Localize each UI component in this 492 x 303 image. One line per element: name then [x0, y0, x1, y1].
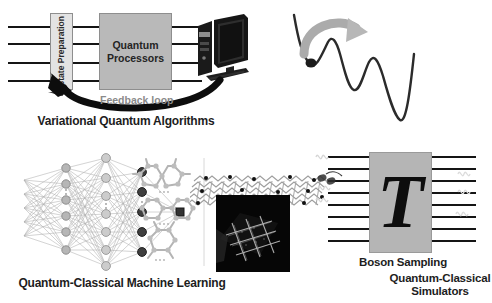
quantum-annealing-panel: Quantum Annealing — [280, 0, 492, 135]
input-wire — [8, 26, 50, 28]
quantum-processors-label: Quantum Processors — [100, 39, 171, 64]
quantum-classical-simulators-panel: Quantum-Classical Simulators — [190, 133, 330, 283]
middle-wire — [73, 43, 99, 45]
tunneling-arrow-icon — [292, 12, 378, 62]
input-wire — [8, 62, 50, 64]
quantum-chip-photo-icon — [216, 195, 290, 272]
feedback-loop-label: Feedback loop — [100, 94, 174, 106]
input-wire — [8, 43, 50, 45]
output-mode-line — [432, 156, 476, 158]
photon-wave-packet-icon — [314, 148, 370, 252]
boson-sampling-caption: Boson Sampling — [353, 256, 453, 268]
boson-sampling-panel: T Boson Sampling — [318, 148, 492, 303]
variational-quantum-algorithms-caption: Variational Quantum Algorithms — [22, 114, 230, 128]
transfer-matrix-symbol: T — [370, 153, 431, 252]
middle-wire — [73, 26, 99, 28]
quantum-computing-paradigms-figure: State Preparation Quantum Processors — [0, 0, 492, 303]
middle-wire — [73, 62, 99, 64]
photon-wave-packet-icon — [454, 162, 492, 242]
transfer-matrix-box: T — [369, 152, 432, 253]
